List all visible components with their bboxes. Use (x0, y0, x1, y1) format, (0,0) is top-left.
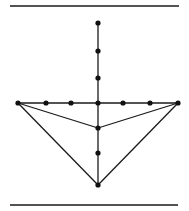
horizontal-rules (10, 6, 179, 205)
node-v-inner (95, 125, 100, 130)
node-h-2 (43, 100, 48, 105)
node-h-right (175, 100, 180, 105)
graph-diagram (0, 0, 189, 211)
node-h-5 (120, 100, 125, 105)
node-v-top (95, 20, 100, 25)
node-h-6 (147, 100, 152, 105)
node-v-bottom (95, 182, 100, 187)
node-v-2 (95, 48, 100, 53)
node-h-left (15, 100, 20, 105)
node-v-3 (95, 75, 100, 80)
node-v-6 (95, 150, 100, 155)
node-center (95, 100, 100, 105)
node-h-3 (68, 100, 73, 105)
